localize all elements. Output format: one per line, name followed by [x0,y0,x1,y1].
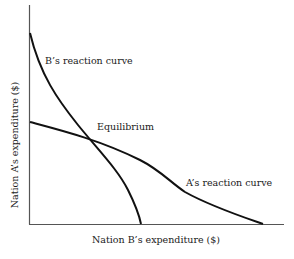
y-axis-label: Nation A’s expenditure ($) [9,82,20,209]
a-curve-label: A’s reaction curve [185,177,273,188]
x-axis-label: Nation B’s expenditure ($) [92,234,220,245]
equilibrium-label: Equilibrium [97,121,154,132]
b-curve-label: B’s reaction curve [45,55,133,66]
reaction-curve-diagram: B’s reaction curve Equilibrium A’s react… [0,0,294,259]
a-reaction-curve [30,122,263,224]
